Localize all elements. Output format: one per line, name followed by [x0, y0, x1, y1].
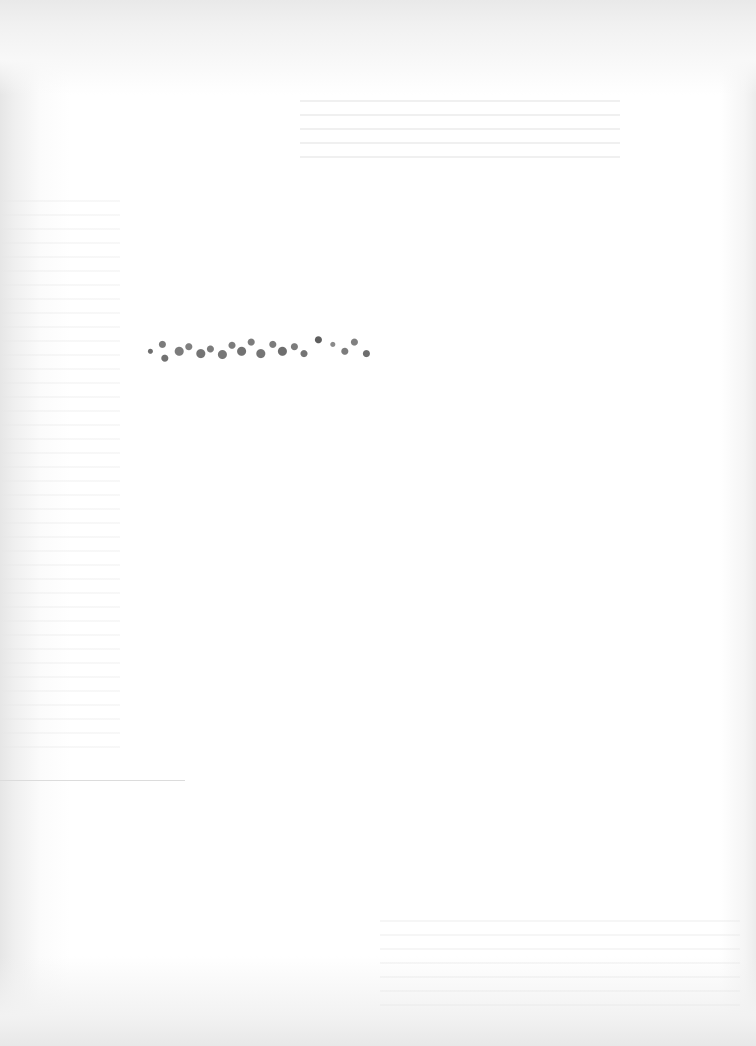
degraded-text-line — [136, 326, 376, 372]
bleed-through-top-right — [300, 100, 620, 160]
faint-rule-line — [0, 780, 185, 781]
bleed-through-bottom-right — [380, 920, 740, 1010]
scanned-page — [0, 0, 756, 1046]
bleed-through-left-margin — [0, 200, 120, 760]
scan-edge-top — [0, 0, 756, 95]
